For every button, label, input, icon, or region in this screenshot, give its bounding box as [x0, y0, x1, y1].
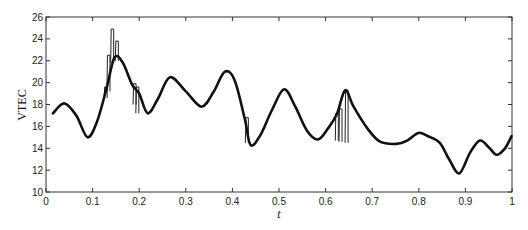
x-tick-label: 0.2 [132, 196, 146, 207]
x-tick-label: 0.7 [365, 196, 379, 207]
x-tick-label: 0 [43, 196, 49, 207]
x-tick-label: 0.3 [179, 196, 193, 207]
y-tick-label: 20 [32, 77, 44, 88]
x-tick-label: 0.4 [225, 196, 239, 207]
x-axis-label: t [277, 207, 281, 221]
smooth-vtec-line [53, 56, 512, 174]
raw-spike [345, 90, 348, 143]
y-axis-label: VTEC [15, 89, 29, 120]
y-tick-label: 24 [32, 33, 44, 44]
raw-spike [339, 109, 342, 142]
x-tick-label: 0.8 [412, 196, 426, 207]
y-tick-label: 22 [32, 55, 44, 66]
y-tick-label: 18 [32, 99, 44, 110]
y-tick-label: 12 [32, 165, 44, 176]
raw-spikes-series [104, 29, 348, 143]
vtec-line-chart: 00.10.20.30.40.50.60.70.80.9110121416182… [0, 0, 528, 230]
x-tick-label: 1 [509, 196, 515, 207]
x-tick-label: 0.1 [86, 196, 100, 207]
x-tick-label: 0.5 [272, 196, 286, 207]
y-tick-label: 26 [32, 12, 44, 23]
x-tick-label: 0.9 [458, 196, 472, 207]
y-tick-label: 14 [32, 143, 44, 154]
plot-area: 00.10.20.30.40.50.60.70.80.9110121416182… [32, 12, 515, 208]
y-tick-label: 16 [32, 121, 44, 132]
y-tick-label: 10 [32, 187, 44, 198]
x-tick-label: 0.6 [319, 196, 333, 207]
